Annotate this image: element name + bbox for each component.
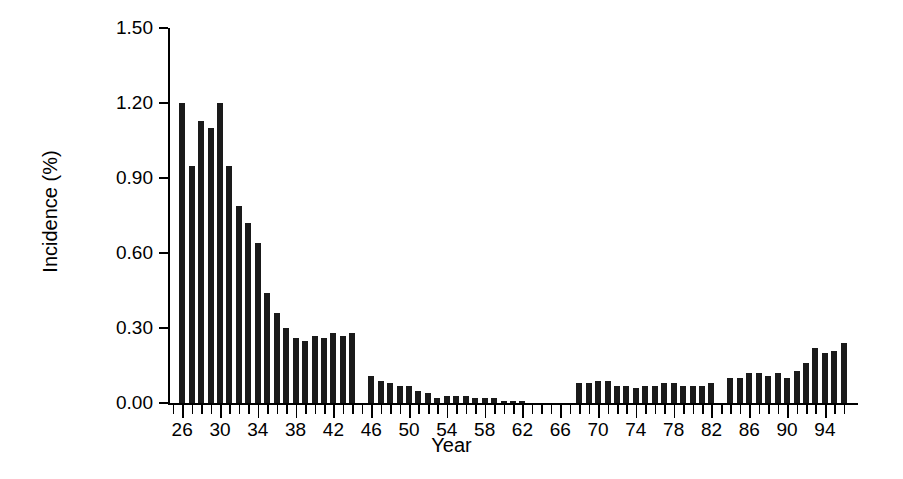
x-tick-minor bbox=[721, 405, 723, 414]
x-tick-minor bbox=[362, 405, 364, 414]
x-tick-minor bbox=[617, 405, 619, 414]
x-tick-minor bbox=[693, 405, 695, 414]
y-tick bbox=[159, 327, 168, 329]
x-tick-minor bbox=[844, 405, 846, 414]
bar bbox=[179, 103, 185, 403]
bar bbox=[226, 166, 232, 404]
x-tick-major bbox=[598, 405, 600, 418]
bar bbox=[406, 386, 412, 404]
bar bbox=[727, 378, 733, 403]
x-tick-minor bbox=[277, 405, 279, 414]
bar bbox=[274, 313, 280, 403]
x-tick-minor bbox=[229, 405, 231, 414]
y-tick-label: 0.00 bbox=[83, 393, 153, 412]
x-tick-minor bbox=[418, 405, 420, 414]
bar bbox=[312, 336, 318, 404]
bar bbox=[340, 336, 346, 404]
bar bbox=[245, 223, 251, 403]
bar bbox=[812, 348, 818, 403]
y-tick bbox=[159, 177, 168, 179]
bar bbox=[198, 121, 204, 404]
bar bbox=[255, 243, 261, 403]
x-tick-minor bbox=[740, 405, 742, 414]
x-tick-major bbox=[825, 405, 827, 418]
bar bbox=[794, 371, 800, 404]
y-tick-label: 0.90 bbox=[83, 168, 153, 187]
bar bbox=[614, 386, 620, 404]
x-tick-major bbox=[749, 405, 751, 418]
x-tick-major bbox=[711, 405, 713, 418]
x-tick-minor bbox=[768, 405, 770, 414]
x-tick-minor bbox=[541, 405, 543, 414]
x-tick-minor bbox=[466, 405, 468, 414]
bar bbox=[756, 373, 762, 403]
x-tick-major bbox=[447, 405, 449, 418]
y-axis-title: Incidence (%) bbox=[39, 102, 62, 322]
x-tick-minor bbox=[655, 405, 657, 414]
bar bbox=[397, 386, 403, 404]
bar bbox=[623, 386, 629, 404]
x-tick-minor bbox=[834, 405, 836, 414]
bar bbox=[841, 343, 847, 403]
chart-figure: Incidence (%) 0.000.300.600.901.201.50 2… bbox=[0, 0, 903, 479]
x-tick-minor bbox=[315, 405, 317, 414]
x-tick-minor bbox=[664, 405, 666, 414]
x-tick-minor bbox=[239, 405, 241, 414]
bar bbox=[330, 333, 336, 403]
bar bbox=[472, 398, 478, 403]
x-tick-minor bbox=[702, 405, 704, 414]
x-tick-major bbox=[522, 405, 524, 418]
x-tick-major bbox=[333, 405, 335, 418]
x-tick-minor bbox=[324, 405, 326, 414]
x-tick-minor bbox=[173, 405, 175, 414]
bar bbox=[708, 383, 714, 403]
bar bbox=[444, 396, 450, 404]
x-tick-major bbox=[787, 405, 789, 418]
x-tick-minor bbox=[532, 405, 534, 414]
bar bbox=[642, 386, 648, 404]
x-tick-minor bbox=[305, 405, 307, 414]
bar bbox=[491, 398, 497, 403]
bar bbox=[633, 388, 639, 403]
y-tick bbox=[159, 402, 168, 404]
x-tick-major bbox=[182, 405, 184, 418]
plot-area: 0.000.300.600.901.201.50 263034384246505… bbox=[168, 28, 858, 403]
bar bbox=[293, 338, 299, 403]
bar bbox=[803, 363, 809, 403]
y-tick bbox=[159, 102, 168, 104]
y-tick-label: 1.20 bbox=[83, 93, 153, 112]
x-tick-major bbox=[371, 405, 373, 418]
y-tick-label: 0.60 bbox=[83, 243, 153, 262]
x-tick-minor bbox=[267, 405, 269, 414]
x-tick-minor bbox=[626, 405, 628, 414]
bar bbox=[349, 333, 355, 403]
x-tick-major bbox=[220, 405, 222, 418]
bar bbox=[321, 338, 327, 403]
x-tick-minor bbox=[683, 405, 685, 414]
bar bbox=[586, 383, 592, 403]
x-tick-minor bbox=[201, 405, 203, 414]
x-tick-minor bbox=[815, 405, 817, 414]
x-tick-minor bbox=[589, 405, 591, 414]
x-tick-minor bbox=[797, 405, 799, 414]
bar bbox=[387, 383, 393, 403]
bar bbox=[434, 398, 440, 403]
x-tick-major bbox=[296, 405, 298, 418]
y-tick bbox=[159, 27, 168, 29]
bar bbox=[746, 373, 752, 403]
x-tick-minor bbox=[645, 405, 647, 414]
y-tick-label: 0.30 bbox=[83, 318, 153, 337]
bar bbox=[519, 401, 525, 404]
x-tick-minor bbox=[390, 405, 392, 414]
bar bbox=[415, 391, 421, 404]
bar bbox=[189, 166, 195, 404]
x-tick-minor bbox=[286, 405, 288, 414]
x-tick-major bbox=[560, 405, 562, 418]
bar bbox=[680, 386, 686, 404]
bar bbox=[831, 351, 837, 404]
bar bbox=[217, 103, 223, 403]
y-tick bbox=[159, 252, 168, 254]
x-tick-major bbox=[258, 405, 260, 418]
bar bbox=[208, 128, 214, 403]
x-axis-title: Year bbox=[0, 434, 903, 457]
